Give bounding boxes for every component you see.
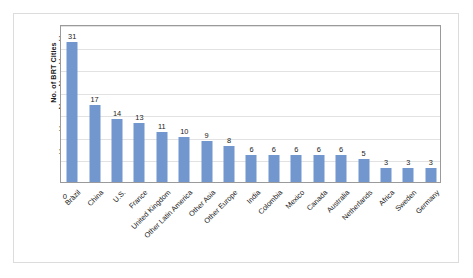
x-axis-category-label: Africa bbox=[377, 188, 397, 208]
y-axis-title: No. of BRT Cities bbox=[49, 13, 58, 133]
bar[interactable] bbox=[112, 119, 123, 182]
bar[interactable] bbox=[246, 155, 257, 182]
bar[interactable] bbox=[358, 159, 369, 182]
bar-group[interactable]: 6 bbox=[240, 26, 262, 182]
x-axis-category-label: U.S. bbox=[111, 188, 127, 204]
bar-value-label: 8 bbox=[227, 136, 231, 145]
bar-value-label: 31 bbox=[68, 32, 76, 41]
bar-group[interactable]: 31 bbox=[61, 26, 83, 182]
bar-value-label: 6 bbox=[249, 145, 253, 154]
x-axis-category-label: India bbox=[244, 188, 262, 206]
bar-value-label: 6 bbox=[339, 145, 343, 154]
bar-group[interactable]: 3 bbox=[375, 26, 397, 182]
bar[interactable] bbox=[380, 168, 391, 182]
bar[interactable] bbox=[268, 155, 279, 182]
bar-group[interactable]: 11 bbox=[151, 26, 173, 182]
x-axis-category-label: Germany bbox=[414, 188, 442, 216]
bar-value-label: 5 bbox=[361, 149, 365, 158]
bar-group[interactable]: 3 bbox=[420, 26, 442, 182]
bar-value-label: 13 bbox=[135, 113, 143, 122]
bar-group[interactable]: 9 bbox=[195, 26, 217, 182]
bar-group[interactable]: 10 bbox=[173, 26, 195, 182]
bar-value-label: 3 bbox=[384, 158, 388, 167]
bar[interactable] bbox=[67, 42, 78, 182]
bar-group[interactable]: 6 bbox=[263, 26, 285, 182]
bar-group[interactable]: 13 bbox=[128, 26, 150, 182]
bar-value-label: 3 bbox=[406, 158, 410, 167]
bar[interactable] bbox=[336, 155, 347, 182]
plot-area: 31171413111098666665333 bbox=[60, 25, 441, 183]
bar-value-label: 10 bbox=[180, 127, 188, 136]
bar-group[interactable]: 17 bbox=[83, 26, 105, 182]
chart-screenshot: No. of BRT Cities 05101520253035 3117141… bbox=[0, 0, 473, 278]
bar[interactable] bbox=[201, 141, 212, 182]
bar-value-label: 6 bbox=[272, 145, 276, 154]
bar-group[interactable]: 5 bbox=[352, 26, 374, 182]
bar-group[interactable]: 14 bbox=[106, 26, 128, 182]
x-axis-category-label: Mexico bbox=[284, 188, 307, 211]
bar[interactable] bbox=[224, 146, 235, 182]
bar-group[interactable]: 3 bbox=[397, 26, 419, 182]
bar-group[interactable]: 6 bbox=[308, 26, 330, 182]
bar-group[interactable]: 6 bbox=[330, 26, 352, 182]
bar[interactable] bbox=[291, 155, 302, 182]
bar-value-label: 6 bbox=[317, 145, 321, 154]
bar[interactable] bbox=[156, 132, 167, 182]
bar[interactable] bbox=[179, 137, 190, 182]
bar[interactable] bbox=[313, 155, 324, 182]
bars-layer: 31171413111098666665333 bbox=[61, 26, 440, 182]
bar-value-label: 17 bbox=[90, 95, 98, 104]
bar-value-label: 3 bbox=[429, 158, 433, 167]
bar-value-label: 11 bbox=[158, 122, 166, 131]
x-axis-category-label: Brazil bbox=[63, 188, 82, 207]
bar-value-label: 9 bbox=[205, 131, 209, 140]
chart-frame: No. of BRT Cities 05101520253035 3117141… bbox=[13, 13, 459, 263]
bar-value-label: 6 bbox=[294, 145, 298, 154]
bar-group[interactable]: 8 bbox=[218, 26, 240, 182]
bar-value-label: 14 bbox=[113, 109, 121, 118]
bar[interactable] bbox=[403, 168, 414, 182]
bar[interactable] bbox=[134, 123, 145, 182]
bar[interactable] bbox=[89, 105, 100, 182]
bar[interactable] bbox=[425, 168, 436, 182]
x-axis-category-labels: BrazilChinaU.S.FranceUnited KingdomOther… bbox=[60, 185, 441, 255]
x-axis-category-label: China bbox=[85, 188, 105, 208]
bar-group[interactable]: 6 bbox=[285, 26, 307, 182]
